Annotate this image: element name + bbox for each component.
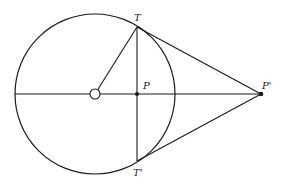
point-p-prime-dot: [259, 92, 264, 97]
label-t-prime: T': [133, 167, 142, 178]
tangent-upper: [137, 27, 261, 94]
point-p-dot: [135, 92, 139, 96]
label-p-prime: P': [261, 80, 271, 91]
label-p: P: [142, 80, 150, 91]
label-t: T: [134, 12, 142, 23]
geometry-diagram: T P P' T': [0, 0, 285, 186]
center-marker: [90, 89, 100, 99]
tangent-lower: [137, 94, 261, 161]
radius-line: [95, 27, 137, 94]
